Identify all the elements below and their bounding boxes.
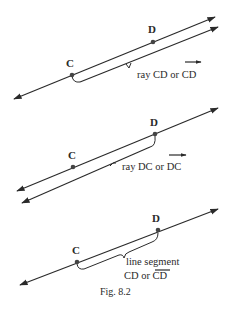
- ray-cd-description: ray CD or CD: [137, 69, 197, 80]
- ray-dc-notation: DC: [167, 161, 182, 172]
- ray-cd-notation: CD: [182, 69, 197, 80]
- point-c: [71, 165, 76, 170]
- point-d: [153, 132, 158, 137]
- line-dc: [17, 108, 218, 191]
- panel-ray-dc: C D ray DC or DC: [17, 108, 218, 203]
- point-d: [156, 228, 161, 233]
- segment-notation: CD: [153, 270, 168, 281]
- point-c: [75, 260, 80, 265]
- ray-dc-description: ray DC or DC: [122, 161, 181, 172]
- label-c: C: [72, 244, 80, 256]
- label-d: D: [152, 212, 160, 224]
- label-c: C: [68, 149, 76, 161]
- figure-8-2: C D ray CD or CD C D ray DC or DC C D li…: [0, 0, 233, 313]
- brace-icon: [110, 163, 116, 166]
- segment-description-line1: line segment: [126, 256, 179, 267]
- point-d: [151, 40, 156, 45]
- figure-caption: Fig. 8.2: [100, 286, 131, 297]
- label-d: D: [150, 116, 158, 128]
- ray-dc-arrow: [22, 147, 150, 203]
- panel-segment-cd: C D line segment CD or CD: [20, 209, 218, 285]
- point-c: [70, 73, 75, 78]
- label-d: D: [148, 23, 156, 35]
- segment-description-line2: CD or CD: [124, 270, 168, 281]
- ray-start-hook: [150, 136, 155, 147]
- label-c: C: [66, 57, 74, 69]
- line-cd: [20, 209, 218, 285]
- panel-ray-cd: C D ray CD or CD: [14, 17, 218, 99]
- line-cd: [14, 17, 215, 99]
